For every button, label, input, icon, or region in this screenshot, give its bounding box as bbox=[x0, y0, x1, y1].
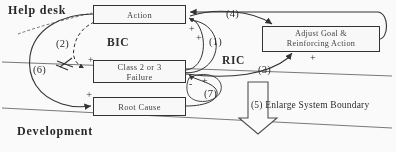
causal-loop-diagram: Action Class 2 or 3 Failure Root Cause A… bbox=[0, 0, 396, 152]
node-adjust-goal-reinforcing-action[interactable]: Adjust Goal & Reinforcing Action bbox=[262, 26, 380, 52]
polarity-sign-1: + bbox=[189, 24, 195, 34]
polarity-sign-7: + bbox=[202, 76, 208, 86]
polarity-sign-5: + bbox=[310, 53, 316, 63]
polarity-sign-2: + bbox=[196, 33, 202, 43]
loop-label-ric: RIC bbox=[222, 54, 245, 66]
step-label-6: (6) bbox=[33, 64, 46, 75]
annotation-enlarge-system-boundary: (5) Enlarge System Boundary bbox=[251, 100, 369, 110]
loop-label-bic: BIC bbox=[107, 36, 129, 48]
step-label-3: (3) bbox=[258, 64, 271, 75]
edge-action-to-left-loop bbox=[30, 14, 93, 107]
zone-label-development: Development bbox=[17, 124, 93, 139]
step-label-7: (7) bbox=[204, 88, 217, 99]
step-label-2: (2) bbox=[56, 38, 69, 49]
step-label-1: (1) bbox=[209, 36, 222, 47]
zone-label-help-desk: Help desk bbox=[8, 3, 66, 18]
node-class-2-or-3-failure[interactable]: Class 2 or 3 Failure bbox=[93, 60, 186, 83]
polarity-sign-6: + bbox=[86, 89, 92, 100]
polarity-sign-3: + bbox=[88, 55, 94, 65]
polarity-sign-4: - bbox=[189, 79, 192, 89]
step-label-4: (4) bbox=[226, 8, 239, 19]
node-action[interactable]: Action bbox=[93, 5, 186, 24]
node-root-cause[interactable]: Root Cause bbox=[93, 97, 186, 116]
